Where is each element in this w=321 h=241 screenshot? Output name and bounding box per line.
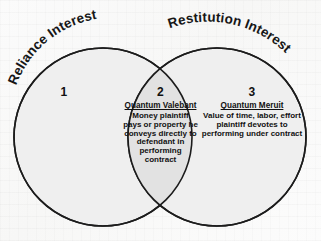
venn-diagram-page: Reliance Interest Restitution Interest 1… <box>0 0 321 241</box>
region-3-body: Value of time, labor, effort plaintiff d… <box>193 112 311 139</box>
region-3-number: 3 <box>193 86 311 99</box>
region-2-body-line: contract <box>113 156 208 165</box>
region-3-body-line: performing under contract <box>193 130 311 139</box>
region-1: 1 <box>36 86 92 99</box>
region-3-heading: Quantum Meruit <box>193 101 311 110</box>
region-3: 3 Quantum Meruit Value of time, labor, e… <box>193 86 311 138</box>
region-1-number: 1 <box>36 86 92 99</box>
